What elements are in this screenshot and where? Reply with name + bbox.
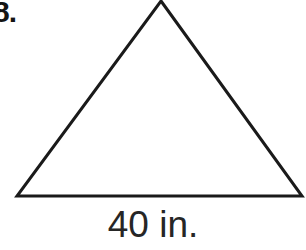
triangle-outline xyxy=(17,1,302,196)
geometry-figure-canvas: 8. 40 in. xyxy=(0,0,306,250)
base-length-label: 40 in. xyxy=(0,206,306,245)
